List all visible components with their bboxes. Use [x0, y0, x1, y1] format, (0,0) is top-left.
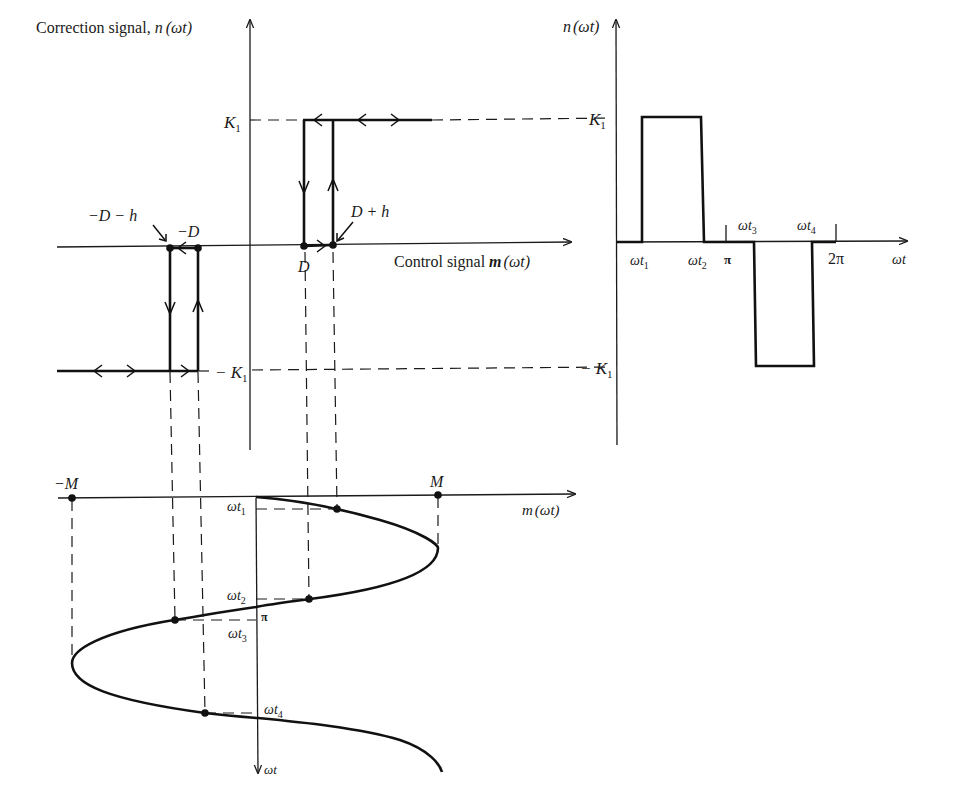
point-wt1	[333, 505, 341, 513]
neg-d-minus-h-projection	[170, 372, 175, 620]
wt3-label-right: ωt3	[738, 218, 757, 236]
wt-time-axis-label: ωt	[264, 762, 277, 777]
d-label: D	[297, 258, 310, 275]
hysteresis-plot: Correction signal, n(ωt) K1 D D + h	[36, 19, 612, 450]
positive-deadzone-segment	[304, 245, 333, 246]
hysteresis-describing-function-diagram: Correction signal, n(ωt) K1 D D + h	[0, 0, 957, 788]
point-wt3	[171, 616, 179, 624]
wt-axis-bottom	[256, 498, 258, 773]
pi-label: π	[261, 610, 268, 624]
m-axis-bottom	[58, 494, 575, 498]
pi-label-right: π	[724, 252, 731, 267]
k1-projection	[432, 118, 612, 120]
neg-m-label: −M	[54, 475, 80, 492]
d-plus-h-projection	[333, 252, 337, 508]
point-d	[300, 242, 308, 250]
wt1-label: ωt1	[227, 499, 246, 517]
wt4-label: ωt4	[264, 702, 283, 720]
neg-k1-label: − K1	[215, 363, 248, 384]
neg-d-minus-h-label: −D − h	[88, 207, 137, 224]
wt-axis-label-right: ωt	[892, 252, 907, 267]
wt3-label: ωt3	[228, 626, 247, 644]
neg-d-projection	[198, 372, 205, 713]
input-sinusoid-plot: −M M m(ωt) ωt1 ωt2 π ωt3 ωt4 ωt	[54, 252, 575, 777]
d-plus-h-label: D + h	[350, 203, 389, 220]
m-label: M	[429, 473, 445, 490]
k1-label: K1	[223, 113, 241, 134]
n-wt-label: n(ωt)	[563, 18, 599, 36]
point-neg-d-minus-h	[166, 244, 174, 252]
wt1-label-right: ωt1	[630, 253, 649, 271]
point-wt2	[305, 595, 313, 603]
correction-signal-label: Correction signal, n(ωt)	[36, 19, 192, 37]
control-signal-label: Control signal m(ωt)	[394, 253, 530, 271]
neg-d-label: −D	[177, 223, 200, 240]
point-neg-d	[194, 244, 202, 252]
wt2-label-right: ωt2	[688, 253, 707, 271]
wt2-label: ωt2	[227, 588, 246, 606]
wt-axis-right	[616, 241, 907, 242]
k1-label-right: K1	[588, 110, 606, 131]
n-axis-right	[616, 20, 617, 445]
wt4-label-right: ωt4	[797, 218, 816, 236]
point-d-plus-h	[329, 241, 337, 249]
output-waveform-plot: n(ωt) K1 − K1 ωt1 ωt2 π ωt3 ωt4 2π ωt	[563, 18, 907, 445]
d-plus-h-pointer	[338, 222, 353, 240]
d-projection	[305, 252, 309, 600]
point-wt4	[201, 709, 209, 717]
neg-d-minus-h-pointer	[153, 225, 165, 240]
m-wt-axis-label: m(ωt)	[522, 502, 560, 519]
neg-k1-label-right: − K1	[580, 359, 613, 380]
two-pi-label: 2π	[828, 250, 844, 267]
